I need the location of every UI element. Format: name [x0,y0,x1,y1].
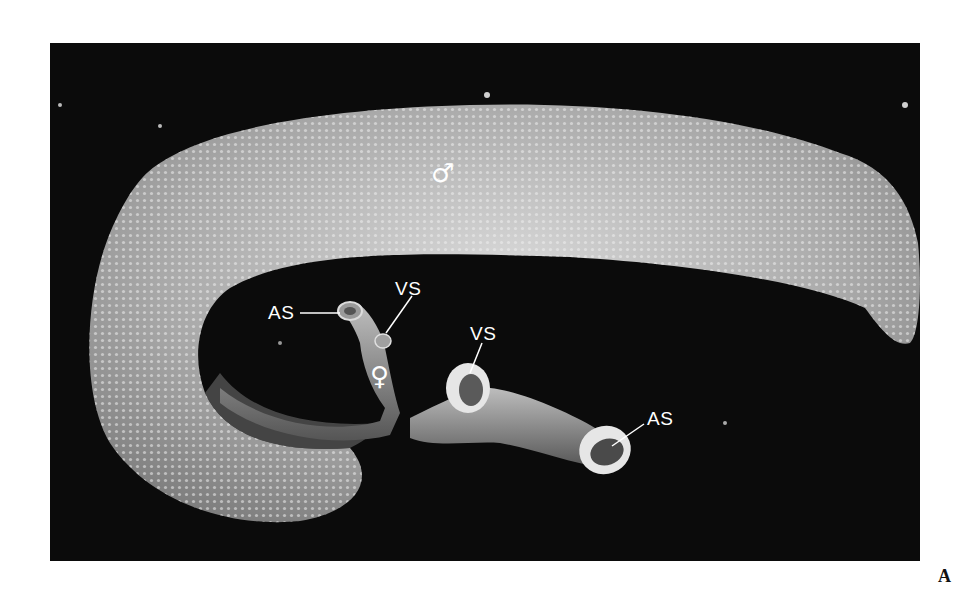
sem-micrograph: ♂ ♀ AS VS VS AS [50,43,920,561]
label-vs-female: VS [395,278,421,300]
worm-illustration [50,43,920,561]
male-symbol: ♂ [431,160,454,186]
label-vs-male: VS [470,323,496,345]
label-as-female: AS [268,302,294,324]
female-symbol: ♀ [370,363,389,389]
label-as-male: AS [647,408,673,430]
panel-letter: A [938,566,951,587]
